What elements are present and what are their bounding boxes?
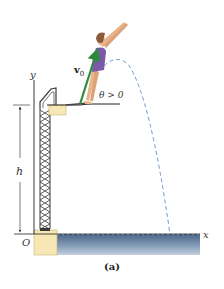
height-label: h <box>16 165 23 178</box>
y-axis-label: y <box>29 69 36 80</box>
velocity-label: v0 <box>73 64 84 78</box>
x-axis-label: x <box>203 229 209 240</box>
projectile-diagram: x y O h <box>0 0 224 289</box>
velocity-subscript: 0 <box>80 70 84 78</box>
angle-label: θ > 0 <box>99 90 124 100</box>
board-support-block <box>49 105 66 115</box>
figure-caption: (a) <box>104 261 120 272</box>
water <box>57 234 200 255</box>
trajectory-path <box>104 59 170 234</box>
origin-label: O <box>22 237 30 248</box>
height-dimension: h <box>13 105 30 231</box>
diving-board <box>47 103 120 115</box>
